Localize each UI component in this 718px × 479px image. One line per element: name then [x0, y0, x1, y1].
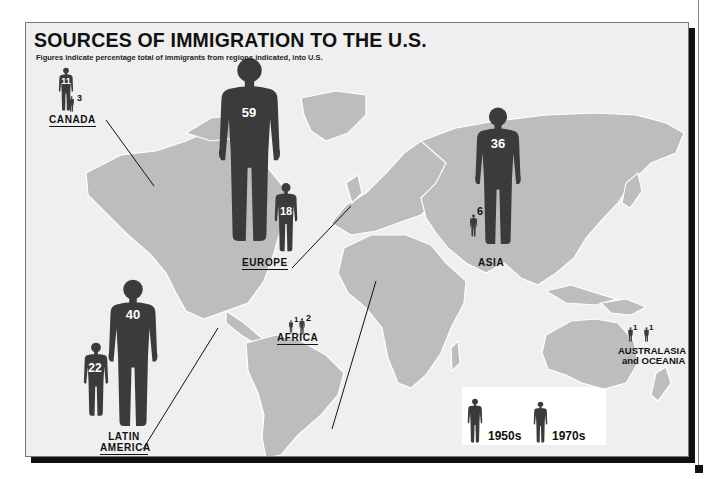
land-greenland — [301, 91, 366, 141]
africa-1950s-figure — [289, 320, 293, 333]
canada-1950s-value: 11 — [57, 76, 75, 86]
asia-1970s-value: 6 — [477, 205, 483, 217]
africa-leader-line — [332, 281, 376, 429]
latin-america-label-line2: AMERICA — [100, 442, 148, 455]
europe-1950s-value: 59 — [232, 105, 266, 120]
australasia-1950s-value: 1 — [633, 323, 637, 332]
land-africa — [338, 235, 466, 388]
africa-1950s-value: 1 — [294, 315, 298, 324]
europe-label: EUROPE — [242, 257, 288, 270]
right-edge-line — [698, 0, 699, 466]
land-south-america — [246, 335, 344, 457]
africa-1970s-value: 2 — [306, 313, 311, 323]
canada-label: CANADA — [49, 114, 96, 127]
latin-america-1950s-figure — [109, 280, 158, 426]
page-title: SOURCES OF IMMIGRATION TO THE U.S. — [34, 29, 427, 52]
australasia-1970s-value: 1 — [649, 323, 653, 332]
land-asia — [421, 113, 684, 285]
asia-1950s-value: 36 — [481, 136, 515, 151]
land-new-guinea — [601, 299, 646, 315]
subtitle: Figures indicate percentage total of imm… — [36, 53, 323, 62]
latin-america-label-line1: LATIN — [100, 431, 148, 442]
land-madagascar — [451, 341, 460, 371]
land-new-zealand — [651, 367, 671, 401]
asia-label: ASIA — [478, 257, 504, 268]
australasia-label-line2: and OCEANIA — [622, 355, 685, 366]
europe-1970s-value: 18 — [274, 205, 298, 217]
infographic-panel: SOURCES OF IMMIGRATION TO THE U.S. Figur… — [25, 22, 689, 457]
africa-label: AFRICA — [277, 332, 318, 345]
canada-1970s-value: 3 — [77, 93, 82, 103]
legend-1970s-label: 1970s — [552, 429, 585, 443]
legend-1950s-label: 1950s — [488, 429, 521, 443]
latin-america-1970s-figure — [84, 343, 109, 416]
corner-marker — [695, 465, 703, 473]
latin-america-1970s-value: 22 — [83, 361, 107, 375]
latin-america-1950s-value: 40 — [116, 307, 150, 322]
